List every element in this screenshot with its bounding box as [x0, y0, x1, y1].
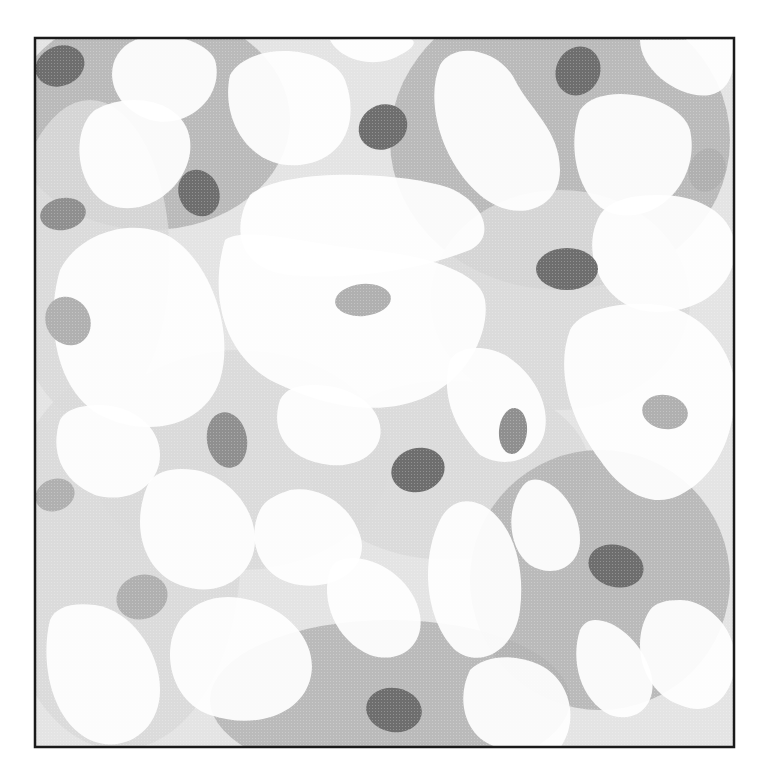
halftone-overlay: [36, 39, 733, 746]
cell-network-illustration: [0, 0, 770, 781]
artwork-layer: [0, 0, 735, 780]
